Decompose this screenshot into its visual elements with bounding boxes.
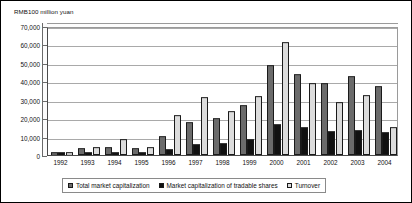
bar-group bbox=[159, 28, 181, 155]
bar-total bbox=[105, 148, 112, 155]
bar-total bbox=[78, 149, 85, 156]
y-axis-tick-label: 30,000 bbox=[20, 97, 40, 104]
bar-tradable bbox=[382, 133, 389, 155]
bar-turnover bbox=[282, 43, 289, 155]
y-axis-tick-label: 60,000 bbox=[20, 42, 40, 49]
plot-area bbox=[47, 27, 398, 156]
bar-turnover bbox=[201, 98, 208, 155]
bar-total bbox=[213, 119, 220, 155]
bar-tradable bbox=[193, 145, 200, 155]
bar-turnover bbox=[390, 128, 397, 155]
bar-total bbox=[132, 149, 139, 155]
bar-total bbox=[321, 84, 328, 155]
bar-total bbox=[267, 66, 274, 155]
bar-total bbox=[51, 153, 58, 155]
bar-turnover bbox=[66, 153, 73, 155]
y-axis-tick-label: 20,000 bbox=[20, 116, 40, 123]
bar-tradable bbox=[85, 153, 92, 155]
y-axis-tick-label: 40,000 bbox=[20, 79, 40, 86]
bar-turnover bbox=[255, 97, 262, 155]
bar-group bbox=[105, 28, 127, 155]
y-axis-unit-label: RMB100 million yuan bbox=[14, 8, 73, 15]
legend-item-market-capitalization-of-tradable-shares: Market capitalization of tradable shares bbox=[159, 182, 278, 189]
bar-group bbox=[78, 28, 100, 155]
bar-group bbox=[132, 28, 154, 155]
bar-group bbox=[186, 28, 208, 155]
bar-turnover bbox=[120, 140, 127, 155]
bar-groups bbox=[48, 28, 397, 155]
bar-group bbox=[51, 28, 73, 155]
y-axis-tick-label: 0 bbox=[36, 153, 40, 160]
bar-group bbox=[240, 28, 262, 155]
legend-swatch-icon-total bbox=[68, 183, 73, 188]
bar-group bbox=[321, 28, 343, 155]
y-axis-tick-label: 70,000 bbox=[20, 24, 40, 31]
bar-total bbox=[240, 106, 247, 155]
bar-total bbox=[375, 87, 382, 155]
legend-swatch-icon-tradable bbox=[159, 183, 164, 188]
bar-group bbox=[294, 28, 316, 155]
bar-tradable bbox=[301, 128, 308, 155]
chart-container: RMB100 million yuan 70,00060,00050,00040… bbox=[0, 0, 412, 203]
chart-legend: Total market capitalization Market capit… bbox=[62, 178, 326, 193]
legend-label-turnover: Turnover bbox=[295, 182, 320, 189]
y-axis-tick-label: 50,000 bbox=[20, 60, 40, 67]
bar-tradable bbox=[328, 132, 335, 155]
bar-tradable bbox=[220, 144, 227, 155]
bar-group bbox=[213, 28, 235, 155]
bar-tradable bbox=[166, 150, 173, 155]
bar-turnover bbox=[93, 148, 100, 155]
bar-tradable bbox=[58, 153, 65, 155]
y-axis-tick-label: 10,000 bbox=[20, 134, 40, 141]
bar-turnover bbox=[363, 96, 370, 155]
bar-total bbox=[159, 137, 166, 155]
legend-label-total: Total market capitalization bbox=[76, 182, 150, 189]
bar-turnover bbox=[336, 103, 343, 155]
bar-group bbox=[348, 28, 370, 155]
bar-tradable bbox=[112, 153, 119, 155]
legend-swatch-icon-turnover bbox=[287, 183, 292, 188]
x-axis-tick-label: 2004 bbox=[368, 159, 402, 166]
bar-total bbox=[186, 123, 193, 155]
bar-total bbox=[348, 77, 355, 155]
y-axis-tick-mark bbox=[42, 156, 47, 157]
bar-turnover bbox=[174, 116, 181, 155]
bar-total bbox=[294, 75, 301, 155]
bar-tradable bbox=[274, 125, 281, 155]
bar-group bbox=[375, 28, 397, 155]
bar-turnover bbox=[228, 112, 235, 155]
bar-tradable bbox=[355, 131, 362, 155]
bar-tradable bbox=[139, 153, 146, 155]
bar-tradable bbox=[247, 140, 254, 155]
bar-group bbox=[267, 28, 289, 155]
legend-item-turnover: Turnover bbox=[287, 182, 320, 189]
bar-turnover bbox=[309, 84, 316, 155]
legend-item-total-market-capitalization: Total market capitalization bbox=[68, 182, 150, 189]
legend-label-tradable: Market capitalization of tradable shares bbox=[167, 182, 278, 189]
bar-turnover bbox=[147, 148, 154, 155]
